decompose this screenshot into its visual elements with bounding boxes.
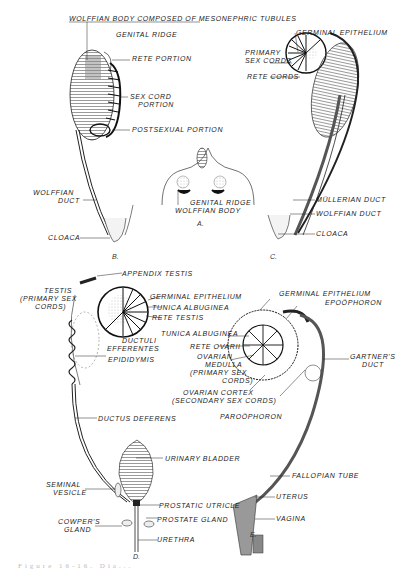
label-genital-ridge-b: GENITAL RIDGE (116, 31, 177, 39)
label-wolffian-duct-c: WOLFFIAN DUCT (316, 210, 381, 218)
label-medulla-4: CORDS) (222, 377, 253, 385)
label-tunica-albuginea-e: TUNICA ALBUGINEA (161, 330, 238, 338)
figure-letter-e: E. (250, 531, 257, 538)
figure-a-drawing (162, 148, 254, 205)
label-cortex-1: OVARIAN CORTEX (183, 389, 254, 397)
label-tunica-albuginea-d: TUNICA ALBUGINEA (152, 304, 229, 312)
label-germinal-epithelium-c: GERMINAL EPITHELIUM (296, 29, 388, 37)
label-cloaca-b: CLOACA (48, 234, 80, 242)
label-prostatic-utricle: PROSTATIC UTRICLE (159, 502, 240, 510)
label-medulla-3: (PRIMARY SEX (190, 369, 247, 377)
label-postsexual-portion: POSTSEXUAL PORTION (132, 126, 223, 134)
label-gartners-1: GARTNER'S (350, 353, 396, 361)
figure-letter-b: B. (112, 253, 119, 260)
label-rete-ovarii: RETE OVARII (190, 343, 241, 351)
label-ductus-deferens: DUCTUS DEFERENS (98, 415, 176, 423)
diagram-canvas: WOLFFIAN BODY COMPOSED OF MESONEPHRIC TU… (0, 0, 410, 575)
label-rete-testis: RETE TESTIS (152, 314, 204, 322)
label-urethra: URETHRA (157, 536, 195, 544)
label-genital-ridge-a: GENITAL RIDGE (190, 199, 251, 207)
label-sex-cord-1: SEX CORD (130, 93, 171, 101)
label-vagina: VAGINA (276, 515, 306, 523)
label-rete-cords: RETE CORDS (247, 73, 299, 81)
figure-letter-a: A. (197, 220, 204, 227)
label-uterus: UTERUS (276, 493, 308, 501)
label-primary-sex-cords-2: SEX CORDS (245, 57, 292, 65)
label-cortex-2: (SECONDARY SEX CORDS) (172, 397, 276, 405)
label-ductuli-2: EFFERENTES (107, 345, 159, 353)
label-seminal-2: VESICLE (53, 489, 87, 497)
label-germinal-epithelium-d: GERMINAL EPITHELIUM (150, 293, 242, 301)
label-seminal-1: SEMINAL (46, 481, 81, 489)
figure-caption: Figure 16-16. Dia... (18, 562, 133, 570)
label-epididymis: EPIDIDYMIS (108, 356, 154, 364)
figure-letter-c: C. (270, 253, 277, 260)
label-mullerian-duct: MÜLLERIAN DUCT (316, 196, 386, 204)
label-testis-3: CORDS) (35, 303, 66, 311)
label-testis-1: TESTIS (44, 287, 72, 295)
label-rete-portion: RETE PORTION (132, 55, 192, 63)
label-medulla-2: MEDULLA (205, 361, 242, 369)
label-germinal-epithelium-e: GERMINAL EPITHELIUM (279, 290, 371, 298)
label-sex-cord-2: PORTION (138, 101, 174, 109)
label-primary-sex-cords-1: PRIMARY (245, 49, 281, 57)
label-wolffian-body-mesonephric: WOLFFIAN BODY COMPOSED OF MESONEPHRIC TU… (69, 15, 296, 23)
label-appendix-testis: APPENDIX TESTIS (122, 270, 193, 278)
label-cloaca-c: CLOACA (316, 230, 348, 238)
label-fallopian-tube: FALLOPIAN TUBE (292, 472, 359, 480)
label-cowpers-2: GLAND (64, 526, 91, 534)
label-medulla-1: OVARIAN (197, 353, 232, 361)
label-wolffian-duct-b-2: DUCT (58, 197, 80, 205)
label-paroophoron: PAROÖPHORON (220, 413, 282, 421)
label-prostate-gland: PROSTATE GLAND (157, 516, 228, 524)
label-wolffian-duct-b-1: WOLFFIAN (33, 189, 74, 197)
figure-letter-d: D. (133, 553, 140, 560)
figure-d-drawing (69, 273, 163, 552)
label-cowpers-1: COWPER'S (58, 518, 100, 526)
label-urinary-bladder: URINARY BLADDER (165, 455, 240, 463)
label-ductuli-1: DUCTULI (122, 337, 157, 345)
label-wolffian-body-a: WOLFFIAN BODY (175, 207, 241, 215)
label-epoophoron: EPOÖPHORON (325, 299, 382, 307)
label-gartners-2: DUCT (362, 361, 384, 369)
label-testis-2: (PRIMARY SEX (20, 295, 77, 303)
